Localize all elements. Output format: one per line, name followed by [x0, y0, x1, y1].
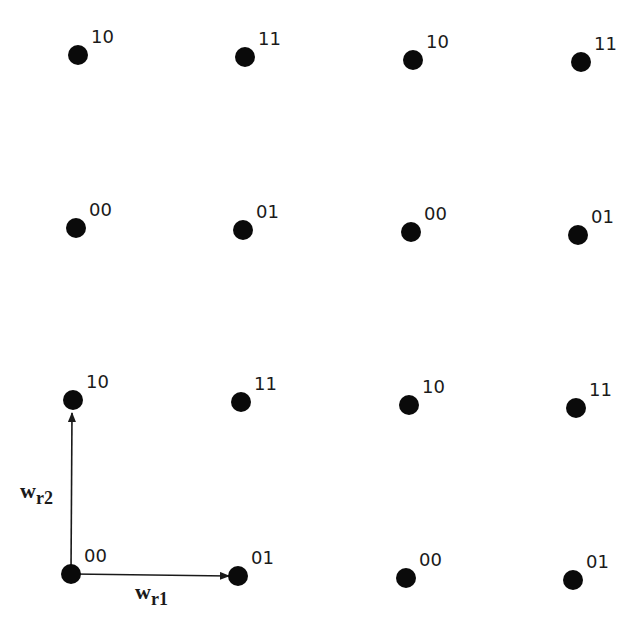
lattice-diagram: 10111011000100011011101100010001 wr2 wr1	[0, 0, 638, 631]
point-label: 00	[424, 203, 447, 224]
lattice-point: 11	[231, 373, 277, 412]
point-dot	[568, 225, 588, 245]
point-label: 11	[258, 28, 281, 49]
lattice-point: 10	[63, 371, 109, 410]
lattice-point: 00	[61, 545, 107, 584]
point-label: 11	[254, 373, 277, 394]
point-dot	[563, 570, 583, 590]
point-dot	[68, 45, 88, 65]
vector-wr1-arrow	[73, 574, 229, 576]
lattice-point: 10	[403, 31, 449, 70]
point-dot	[399, 395, 419, 415]
point-label: 01	[586, 551, 609, 572]
lattice-point: 01	[568, 206, 614, 245]
lattice-point: 11	[566, 379, 612, 418]
point-dot	[228, 566, 248, 586]
point-dot	[401, 222, 421, 242]
point-dot	[233, 220, 253, 240]
lattice-point: 11	[235, 28, 281, 67]
point-label: 01	[591, 206, 614, 227]
point-dot	[66, 218, 86, 238]
point-dot	[61, 564, 81, 584]
lattice-points: 10111011000100011011101100010001	[61, 26, 617, 590]
point-dot	[63, 390, 83, 410]
lattice-point: 11	[571, 33, 617, 72]
vector-wr2-arrow	[71, 413, 72, 572]
lattice-point: 01	[563, 551, 609, 590]
point-label: 11	[594, 33, 617, 54]
point-dot	[235, 47, 255, 67]
vector-wr2-label: wr2	[20, 478, 53, 508]
lattice-point: 00	[401, 203, 447, 242]
point-dot	[566, 398, 586, 418]
lattice-point: 00	[66, 199, 112, 238]
point-label: 01	[251, 547, 274, 568]
point-label: 00	[84, 545, 107, 566]
lattice-point: 01	[228, 547, 274, 586]
point-label: 10	[91, 26, 114, 47]
lattice-point: 01	[233, 201, 279, 240]
point-label: 10	[86, 371, 109, 392]
point-label: 10	[426, 31, 449, 52]
lattice-point: 10	[68, 26, 114, 65]
point-label: 00	[419, 549, 442, 570]
point-label: 01	[256, 201, 279, 222]
point-dot	[396, 568, 416, 588]
point-label: 10	[422, 376, 445, 397]
point-label: 00	[89, 199, 112, 220]
point-dot	[571, 52, 591, 72]
point-label: 11	[589, 379, 612, 400]
point-dot	[403, 50, 423, 70]
lattice-point: 10	[399, 376, 445, 415]
point-dot	[231, 392, 251, 412]
vector-wr1-label: wr1	[135, 579, 168, 609]
lattice-point: 00	[396, 549, 442, 588]
